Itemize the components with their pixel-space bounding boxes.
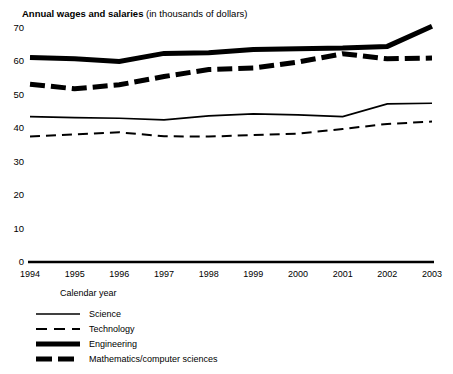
legend-label-engineering: Engineering — [89, 338, 137, 350]
legend-swatch-thick-dashed — [36, 353, 80, 365]
legend-label-technology: Technology — [89, 323, 135, 335]
chart-legend: Science Technology Engineering Mathemati… — [36, 306, 218, 366]
x-axis-tick-label: 2001 — [323, 269, 363, 279]
x-axis-tick-label: 1994 — [10, 269, 50, 279]
legend-swatch-thin-solid — [36, 308, 80, 320]
legend-item-science: Science — [36, 306, 218, 321]
legend-item-engineering: Engineering — [36, 336, 218, 351]
x-axis-tick-label: 2002 — [367, 269, 407, 279]
series-line — [30, 122, 432, 137]
legend-swatch-thin-dashed — [36, 323, 80, 335]
x-axis-tick-label: 1998 — [189, 269, 229, 279]
series-line — [30, 103, 432, 120]
x-axis-tick-label: 2003 — [412, 269, 452, 279]
x-axis-label: Calendar year — [60, 288, 117, 298]
y-axis-tick-label: 60 — [2, 56, 24, 66]
chart-figure: Annual wages and salaries (in thousands … — [0, 0, 453, 374]
y-axis-tick-label: 50 — [2, 90, 24, 100]
x-axis-tick-label: 2000 — [278, 269, 318, 279]
x-axis-tick-label: 1995 — [55, 269, 95, 279]
y-axis-tick-label: 70 — [2, 23, 24, 33]
y-axis-tick-label: 30 — [2, 157, 24, 167]
legend-swatch-thick-solid — [36, 338, 80, 350]
x-axis-tick-label: 1999 — [233, 269, 273, 279]
x-axis-tick-label: 1996 — [99, 269, 139, 279]
legend-item-technology: Technology — [36, 321, 218, 336]
legend-item-mathematics-computer-sciences: Mathematics/computer sciences — [36, 351, 218, 366]
legend-label-science: Science — [89, 308, 121, 320]
y-axis-tick-label: 10 — [2, 224, 24, 234]
y-axis-tick-label: 40 — [2, 123, 24, 133]
y-axis-tick-label: 20 — [2, 190, 24, 200]
y-axis-tick-label: 0 — [2, 257, 24, 267]
x-axis-tick-label: 1997 — [144, 269, 184, 279]
legend-label-mathematics-computer-sciences: Mathematics/computer sciences — [89, 353, 218, 365]
